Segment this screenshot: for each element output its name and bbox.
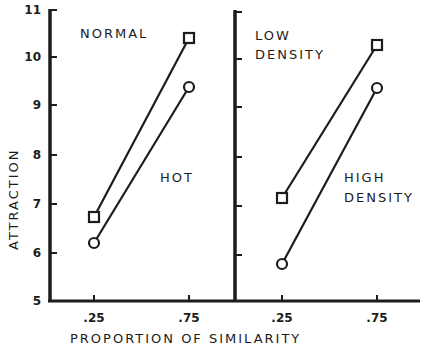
y-tick-11: 11 — [24, 3, 41, 17]
x-axis-label: PROPORTION OF SIMILARITY — [70, 331, 301, 346]
y-tick-9: 9 — [33, 98, 41, 112]
axes — [48, 9, 420, 302]
line-hot — [94, 87, 189, 243]
line-normal — [94, 38, 189, 217]
circle-marker — [372, 83, 382, 93]
square-marker — [184, 33, 194, 43]
label-low-density-1: LOW — [255, 28, 291, 43]
y-tick-labels: 5 6 7 8 9 10 11 — [24, 3, 41, 308]
attraction-chart: 5 6 7 8 9 10 11 .25 .75 .25 .75 ATTRACTI… — [0, 0, 425, 355]
label-normal: NORMAL — [80, 26, 148, 41]
label-high-density-1: HIGH — [344, 170, 385, 185]
y-axis-label: ATTRACTION — [6, 148, 21, 250]
square-marker — [277, 193, 287, 203]
circle-marker — [277, 259, 287, 269]
circle-marker — [89, 238, 99, 248]
y-tick-7: 7 — [33, 197, 41, 211]
x-tick-right-75: .75 — [366, 311, 387, 325]
y-tick-5: 5 — [33, 294, 41, 308]
circle-marker — [184, 82, 194, 92]
label-hot: HOT — [160, 170, 194, 185]
square-marker — [372, 40, 382, 50]
y-tick-6: 6 — [33, 246, 41, 260]
x-tick-labels: .25 .75 .25 .75 — [83, 311, 387, 325]
x-tick-left-75: .75 — [178, 311, 199, 325]
label-high-density-2: DENSITY — [344, 190, 414, 205]
x-tick-right-25: .25 — [271, 311, 292, 325]
square-marker — [89, 212, 99, 222]
y-tick-8: 8 — [33, 148, 41, 162]
x-tick-left-25: .25 — [83, 311, 104, 325]
y-tick-10: 10 — [24, 50, 41, 64]
label-low-density-2: DENSITY — [255, 47, 325, 62]
